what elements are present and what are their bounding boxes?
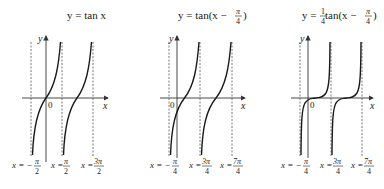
svg-text:x =: x = (350, 160, 363, 170)
svg-text:π: π (236, 7, 241, 16)
asymptote-label-neg-pi-4: x = − π 4 (280, 157, 310, 176)
svg-text:π: π (64, 157, 69, 166)
svg-text:4: 4 (367, 167, 371, 176)
svg-text:3π: 3π (93, 157, 103, 166)
svg-text:4: 4 (366, 17, 370, 26)
svg-text:x = −: x = − (149, 160, 171, 170)
svg-text:π: π (366, 7, 371, 16)
svg-text:2: 2 (64, 167, 68, 176)
tangent-curves (171, 42, 232, 155)
asymptote-labels: x = − π 4 x = 3π 4 x = 7π 4 (280, 157, 374, 176)
asymptote-label-3pi-2: x = 3π 2 (80, 157, 104, 176)
panel-quarter-tan-shift: y = 1 4 tan(x − π 4 ) y x 0 x = − π (280, 7, 377, 176)
asymptote-label-pi-2: x = π 2 (50, 157, 70, 176)
svg-text:tan(x −: tan(x − (325, 9, 357, 22)
x-axis-label: x (102, 100, 108, 111)
panel-tan-shift: y = tan(x − π 4 ) y x 0 x = − π 4 (149, 7, 247, 176)
origin-label: 0 (170, 100, 175, 110)
panel-tan-x: y = tan x y x 0 x = − π 2 x = (11, 9, 108, 176)
svg-text:7π: 7π (364, 157, 373, 166)
origin-label: 0 (48, 100, 53, 110)
svg-text:): ) (373, 9, 377, 22)
svg-text:x = −: x = − (11, 160, 33, 170)
asymptote-label-3pi-4: x = 3π 4 (188, 157, 212, 176)
panel-1-title: y = tan x (67, 9, 106, 21)
svg-text:x =: x = (188, 160, 201, 170)
asymptote-label-3pi-4: x = 3π 4 (319, 157, 343, 176)
svg-text:π: π (304, 157, 309, 166)
svg-text:4: 4 (236, 17, 240, 26)
asymptote-labels: x = − π 4 x = 3π 4 x = 7π 4 (149, 157, 243, 176)
svg-text:x = −: x = − (280, 160, 302, 170)
origin-label: 0 (310, 100, 315, 110)
svg-text:): ) (243, 9, 247, 22)
svg-text:2: 2 (35, 167, 39, 176)
svg-text:y = tan(x −: y = tan(x − (178, 9, 227, 22)
svg-text:3π: 3π (332, 157, 342, 166)
y-axis-label: y (37, 33, 43, 44)
asymptote-label-7pi-4: x = 7π 4 (219, 157, 243, 176)
svg-text:π: π (173, 157, 178, 166)
svg-text:4: 4 (205, 167, 209, 176)
panel-3-title: y = 1 4 tan(x − π 4 ) (302, 7, 377, 26)
x-axis-label: x (240, 100, 246, 111)
tangent-graphs-figure: y = tan x y x 0 x = − π 2 x = (0, 0, 384, 189)
svg-text:4: 4 (173, 167, 177, 176)
asymptote-label-neg-pi-2: x = − π 2 (11, 157, 41, 176)
svg-text:7π: 7π (233, 157, 242, 166)
svg-text:y =: y = (302, 9, 316, 21)
svg-text:3π: 3π (201, 157, 211, 166)
svg-text:4: 4 (236, 167, 240, 176)
svg-text:π: π (35, 157, 40, 166)
asymptote-label-neg-pi-4: x = − π 4 (149, 157, 179, 176)
asymptotes (31, 42, 93, 156)
x-axis-label: x (369, 100, 375, 111)
svg-text:x =: x = (219, 160, 232, 170)
svg-text:x =: x = (80, 160, 93, 170)
panel-2-title: y = tan(x − π 4 ) (178, 7, 247, 26)
svg-text:x =: x = (50, 160, 63, 170)
svg-text:4: 4 (336, 167, 340, 176)
svg-text:x =: x = (319, 160, 332, 170)
svg-text:4: 4 (304, 167, 308, 176)
svg-text:2: 2 (97, 167, 101, 176)
asymptote-labels: x = − π 2 x = π 2 x = 3π 2 (11, 157, 104, 176)
asymptote-label-7pi-4: x = 7π 4 (350, 157, 374, 176)
asymptotes (169, 42, 232, 156)
